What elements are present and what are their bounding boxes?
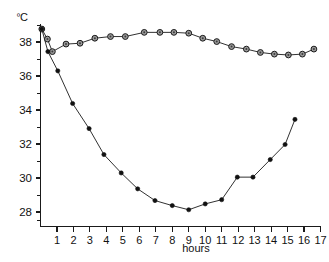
data-point	[187, 208, 191, 212]
data-point-center	[301, 53, 303, 55]
x-label-6: 6	[136, 234, 142, 246]
data-point-center	[188, 32, 190, 34]
chart-figure: ºC 28 30 32 34	[0, 0, 329, 262]
data-point-center	[46, 38, 48, 40]
data-point-center	[79, 42, 81, 44]
temperature-line-chart: ºC 28 30 32 34	[0, 0, 329, 262]
x-axis-title: hours	[182, 242, 210, 254]
data-point	[293, 117, 297, 121]
data-point	[203, 202, 207, 206]
upper-curve-points	[39, 26, 317, 58]
data-point	[46, 50, 50, 54]
x-label-11: 11	[216, 234, 227, 246]
y-label-30: 30	[19, 172, 32, 184]
celsius-letter: C	[20, 11, 28, 23]
x-label-15: 15	[281, 234, 293, 246]
x-label-3: 3	[87, 234, 93, 246]
x-label-17: 17	[314, 234, 326, 246]
data-point	[235, 175, 239, 179]
data-point	[40, 27, 44, 31]
data-point-center	[65, 43, 67, 45]
data-point-center	[216, 41, 218, 43]
x-label-8: 8	[169, 234, 175, 246]
data-point	[87, 127, 91, 131]
data-point-center	[273, 53, 275, 55]
data-point	[71, 101, 75, 105]
y-label-28: 28	[19, 206, 32, 218]
y-axis-unit-label: ºC	[17, 11, 28, 23]
data-point	[119, 171, 123, 175]
data-point	[251, 175, 255, 179]
x-label-1: 1	[54, 234, 60, 246]
data-point-center	[231, 46, 233, 48]
data-point-center	[159, 31, 161, 33]
data-point-center	[124, 36, 126, 38]
x-axis-ticks	[57, 227, 321, 232]
x-label-16: 16	[298, 234, 310, 246]
y-label-36: 36	[19, 70, 32, 82]
x-label-13: 13	[248, 234, 260, 246]
x-label-14: 14	[265, 234, 277, 246]
data-point	[56, 69, 60, 73]
data-point-center	[259, 51, 261, 53]
data-point-center	[245, 48, 247, 50]
data-point	[220, 198, 224, 202]
data-point-center	[287, 54, 289, 56]
x-label-5: 5	[120, 234, 126, 246]
y-axis-tick-labels: 28 30 32 34 36 38	[19, 36, 32, 218]
x-label-4: 4	[103, 234, 109, 246]
y-label-32: 32	[19, 138, 32, 150]
data-point	[153, 198, 157, 202]
data-point-center	[94, 37, 96, 39]
data-point	[136, 187, 140, 191]
data-point	[102, 152, 106, 156]
data-point	[283, 142, 287, 146]
data-point	[170, 203, 174, 207]
data-point-center	[202, 37, 204, 39]
x-label-2: 2	[70, 234, 76, 246]
y-label-34: 34	[19, 104, 32, 116]
data-point-center	[173, 31, 175, 33]
data-point	[268, 157, 272, 161]
data-point-center	[313, 48, 315, 50]
data-point-center	[51, 51, 53, 53]
data-point-center	[110, 36, 112, 38]
x-label-7: 7	[153, 234, 159, 246]
y-label-38: 38	[19, 36, 32, 48]
lower-curve-line	[42, 29, 295, 210]
data-point-center	[143, 31, 145, 33]
x-label-12: 12	[232, 234, 244, 246]
